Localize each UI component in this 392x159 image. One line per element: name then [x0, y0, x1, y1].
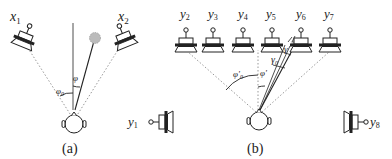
- label-y8: y8: [368, 114, 380, 130]
- label-y1: y1: [126, 114, 138, 130]
- label-gamma0: γ0: [271, 54, 278, 66]
- label-y5: y5: [264, 6, 276, 22]
- virtual-source-icon: [90, 33, 101, 44]
- angle-arc-phi-prime: [258, 86, 265, 87]
- listener-head-icon: [62, 112, 86, 133]
- speaker-y2-icon: [175, 28, 197, 52]
- tick-1: [288, 37, 292, 42]
- speaker-y7-icon: [319, 28, 341, 52]
- label-phi0: φ0: [56, 86, 64, 97]
- listener-head-b-icon: [247, 109, 271, 130]
- diagram-canvas: x1 x2 φ0 φ (a): [0, 0, 392, 159]
- direction-line-2: [260, 46, 290, 110]
- caption-b: (b): [247, 141, 264, 157]
- dotted-line-x1: [26, 45, 72, 117]
- label-y4: y4: [236, 6, 248, 22]
- label-phi: φ: [73, 73, 78, 83]
- label-y3: y3: [206, 6, 218, 22]
- label-phi0-prime: φ'0: [233, 69, 243, 80]
- panel-b: y2 y3 y4 y5 y6 y7 y1 y8 φ'0 φ' γ0 γ (b): [126, 6, 380, 157]
- angle-arc-phi: [73, 86, 80, 87]
- speaker-y3-icon: [202, 28, 224, 52]
- label-y7: y7: [322, 6, 334, 22]
- label-x2: x2: [117, 9, 129, 26]
- speaker-y8-icon: [344, 111, 368, 133]
- label-gamma: γ: [284, 44, 288, 54]
- label-phi-prime: φ': [260, 68, 268, 78]
- label-y2: y2: [178, 6, 190, 22]
- label-y6: y6: [294, 6, 306, 22]
- dotted-line-y2: [188, 52, 256, 112]
- speaker-y5-icon: [261, 28, 283, 52]
- speaker-x2-icon: [108, 20, 137, 51]
- caption-a: (a): [62, 141, 78, 157]
- speaker-y4-icon: [232, 28, 254, 52]
- label-x1: x1: [9, 9, 21, 26]
- speaker-y1-icon: [149, 111, 173, 133]
- panel-a: x1 x2 φ0 φ (a): [9, 9, 138, 157]
